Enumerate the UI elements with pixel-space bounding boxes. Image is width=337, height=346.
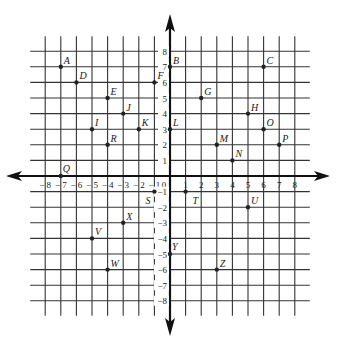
point-dot-icon	[105, 267, 109, 271]
point-dot-icon	[261, 127, 265, 131]
point-label: R	[110, 133, 117, 144]
point-label: H	[250, 102, 259, 113]
x-tick-label: 5	[246, 180, 251, 190]
point-dot-icon	[74, 80, 78, 84]
x-tick-label: − 3	[117, 180, 129, 190]
point-dot-icon	[215, 143, 219, 147]
point-dot-icon	[199, 96, 203, 100]
point-label: I	[94, 117, 99, 128]
y-tick-label: 3	[163, 125, 168, 135]
point-label: X	[125, 211, 133, 222]
y-tick-label: −5	[157, 250, 167, 260]
point-label: W	[111, 258, 121, 269]
x-tick-label: − 5	[86, 180, 98, 190]
y-tick-label: −3	[157, 218, 167, 228]
point-dot-icon	[168, 252, 172, 256]
point-dot-icon	[121, 111, 125, 115]
point-label: A	[63, 55, 71, 66]
point-dot-icon	[137, 127, 141, 131]
point-label: Q	[63, 163, 71, 174]
plotted-points: ABCDEFGHIJKLMNOPQRSTUVWXYZ	[59, 55, 289, 272]
point-dot-icon	[105, 143, 109, 147]
y-tick-label: 8	[163, 47, 168, 57]
point-label: P	[281, 133, 288, 144]
coordinate-plane: − 8− 7− 6− 5− 4− 3− 2− 11234567808765432…	[0, 0, 337, 346]
point-label: O	[267, 117, 274, 128]
point-label: M	[219, 133, 229, 144]
point-label: U	[251, 195, 259, 206]
x-tick-label: 1	[183, 180, 188, 190]
point-label: K	[141, 117, 150, 128]
y-tick-label: −4	[157, 234, 167, 244]
point-dot-icon	[90, 236, 94, 240]
point-label: L	[172, 117, 179, 128]
point-dot-icon	[152, 189, 156, 193]
y-tick-label: −7	[157, 281, 167, 291]
x-tick-label: 8	[293, 180, 298, 190]
y-tick-label: 4	[163, 109, 168, 119]
x-tick-label: − 8	[39, 180, 51, 190]
point-label: S	[145, 195, 150, 206]
y-tick-label: −1	[157, 187, 167, 197]
point-label: V	[95, 226, 103, 237]
point-dot-icon	[59, 65, 63, 69]
y-tick-label: 2	[163, 140, 168, 150]
x-tick-label: 6	[261, 180, 266, 190]
x-tick-label: 2	[199, 180, 204, 190]
x-tick-label: − 2	[133, 180, 145, 190]
point-dot-icon	[230, 158, 234, 162]
point-dot-icon	[90, 127, 94, 131]
point-label: G	[204, 86, 211, 97]
x-tick-label: 3	[215, 180, 220, 190]
point-dot-icon	[152, 80, 156, 84]
point-label: N	[234, 148, 243, 159]
y-tick-label: 5	[163, 94, 168, 104]
point-label: Y	[172, 241, 179, 252]
point-dot-icon	[215, 267, 219, 271]
point-dot-icon	[246, 111, 250, 115]
point-label: C	[267, 55, 274, 66]
point-label: B	[173, 55, 179, 66]
y-tick-label: −8	[157, 296, 167, 306]
point-dot-icon	[168, 65, 172, 69]
point-dot-icon	[59, 174, 63, 178]
y-tick-label: 1	[163, 156, 168, 166]
y-tick-label: −6	[157, 265, 167, 275]
point-dot-icon	[246, 205, 250, 209]
point-label: J	[126, 102, 131, 113]
x-tick-label: 4	[230, 180, 235, 190]
point-label: D	[78, 70, 87, 81]
point-label: E	[110, 86, 117, 97]
x-tick-label: − 7	[55, 180, 67, 190]
x-tick-label: − 6	[70, 180, 82, 190]
x-tick-label: − 4	[102, 180, 114, 190]
point-dot-icon	[121, 221, 125, 225]
point-dot-icon	[277, 143, 281, 147]
point-dot-icon	[261, 65, 265, 69]
point-dot-icon	[105, 96, 109, 100]
x-tick-label: 7	[277, 180, 282, 190]
point-dot-icon	[183, 189, 187, 193]
point-dot-icon	[168, 127, 172, 131]
y-tick-label: −2	[157, 203, 167, 213]
point-label: Z	[220, 258, 226, 269]
point-label: F	[156, 70, 164, 81]
point-label: T	[193, 195, 200, 206]
